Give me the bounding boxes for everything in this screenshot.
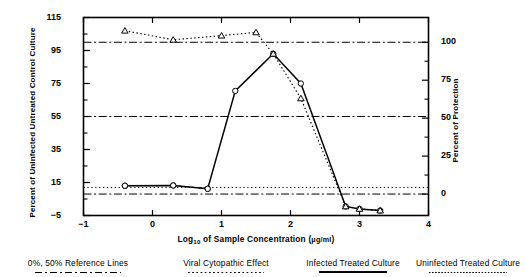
legend-item-label: Infected Treated Culture (290, 258, 416, 268)
legend-item-swatch (429, 271, 507, 275)
data-point-marker (205, 186, 210, 191)
legend-item[interactable]: 0%, 50% Reference Lines (4, 258, 152, 275)
legend-item-swatch (319, 271, 387, 273)
legend-item-label: Viral Cytopathic Effect (158, 258, 294, 268)
data-point-marker (253, 29, 260, 35)
data-point-marker (218, 33, 225, 39)
data-point-marker (298, 81, 303, 86)
data-point-marker (171, 183, 176, 188)
legend-item-label: 0%, 50% Reference Lines (4, 258, 152, 268)
legend-item[interactable]: Viral Cytopathic Effect (158, 258, 294, 275)
legend-item-swatch (35, 271, 121, 275)
legend-item[interactable]: Infected Treated Culture (290, 258, 416, 273)
chart-legend: 0%, 50% Reference LinesViral Cytopathic … (0, 258, 498, 277)
legend-item-label: Uninfected Treated Culture (400, 258, 525, 268)
data-point-marker (298, 95, 305, 101)
legend-item-swatch (188, 271, 264, 275)
data-point-marker (122, 28, 129, 34)
legend-item[interactable]: Uninfected Treated Culture (400, 258, 525, 275)
series-line (125, 31, 380, 211)
data-point-marker (233, 88, 238, 93)
data-point-marker (122, 183, 127, 188)
